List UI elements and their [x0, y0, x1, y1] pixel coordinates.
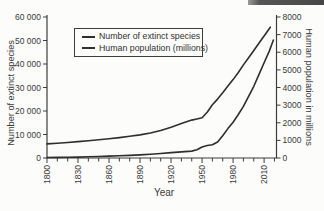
- y-right-tick-label: 3000: [283, 100, 302, 110]
- legend-item-extinct-species: Number of extinct species: [82, 32, 202, 42]
- x-tick-label: 1890: [135, 165, 145, 184]
- y-right-tick-label: 4000: [283, 83, 302, 93]
- y-right-tick-label: 7000: [283, 30, 302, 40]
- legend-item-human-population: Human population (millions): [82, 44, 202, 54]
- line-marker-icon: [82, 47, 95, 49]
- y-left-tick-label: 60 000: [15, 12, 41, 22]
- x-tick-label: 1950: [197, 165, 207, 184]
- y-left-tick-label: 50 000: [15, 36, 41, 46]
- x-tick-label: 1980: [228, 165, 238, 184]
- y-right-tick-label: 8000: [283, 12, 302, 22]
- extinct-species-line: [47, 40, 273, 158]
- y-left-tick-label: 10 000: [15, 130, 41, 140]
- y-right-tick-label: 5000: [283, 65, 302, 75]
- line-marker-icon: [82, 36, 95, 38]
- left-axis-title: Number of extinct species: [6, 40, 16, 146]
- x-tick-label: 1920: [166, 165, 176, 184]
- y-right-tick-label: 2000: [283, 118, 302, 128]
- x-tick-label: 1860: [104, 165, 114, 184]
- y-right-tick-label: 0: [283, 153, 288, 163]
- y-left-tick-label: 40 000: [15, 59, 41, 69]
- legend: Number of extinct species Human populati…: [74, 28, 203, 57]
- y-left-tick-label: 20 000: [15, 106, 41, 116]
- x-tick-label: 1830: [73, 165, 83, 184]
- y-left-tick-label: 30 000: [15, 83, 41, 93]
- x-axis-title: Year: [154, 187, 174, 198]
- y-left-tick-label: 0: [36, 153, 41, 163]
- right-axis-title: Human population in millions: [304, 28, 314, 145]
- y-right-tick-label: 6000: [283, 47, 302, 57]
- figure: 010 00020 00030 00040 00050 00060 000010…: [0, 0, 324, 211]
- legend-label: Number of extinct species: [99, 32, 200, 42]
- x-tick-label: 1800: [42, 165, 52, 184]
- y-right-tick-label: 1000: [283, 135, 302, 145]
- x-tick-label: 2010: [259, 165, 269, 184]
- legend-label: Human population (millions): [99, 44, 208, 54]
